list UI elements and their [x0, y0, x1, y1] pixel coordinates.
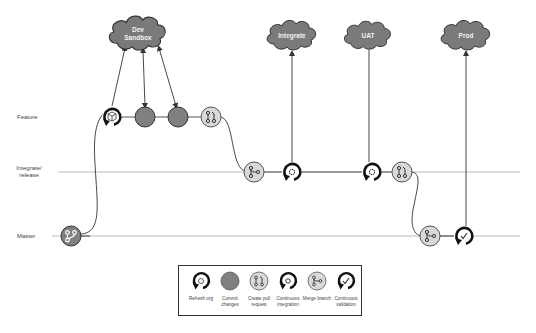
continuous-integration-icon [273, 266, 303, 296]
cloud-label-uat: UAT [348, 32, 388, 40]
row-label-integrate-line2: release [14, 172, 44, 179]
legend-item-commit: Commit changes [215, 266, 245, 300]
refresh-org-node [102, 107, 122, 127]
legend-item-continuous-validation: Continuous validation [331, 266, 361, 300]
legend-item-merge-branch: Merge branch [302, 266, 332, 300]
legend-item-refresh-org: Refresh org [186, 266, 216, 300]
cloud-label-sandbox: Sandbox [118, 34, 158, 42]
refresh-org-icon [186, 266, 216, 296]
legend: Refresh org Commit changes Create pull r… [178, 265, 362, 316]
legend-label-continuous-validation: Continuous validation [329, 296, 363, 307]
merge-branch-icon [302, 266, 332, 296]
merge-node-integrate [244, 162, 264, 182]
continuous-integration-node-2 [362, 162, 382, 182]
arrow-to-dev-sandbox [112, 48, 125, 106]
continuous-validation-node [454, 226, 474, 246]
arrow-dev-sandbox-commit2 [159, 48, 176, 106]
row-label-master: Master [17, 233, 35, 240]
master-branch-node [61, 226, 81, 246]
pull-request-node-integrate [392, 162, 412, 182]
cloud-label-integrate: Integrate [272, 32, 312, 40]
legend-item-pull-request: Create pull request [244, 266, 274, 300]
commit-node-2 [168, 107, 188, 127]
merge-node-master [420, 226, 440, 246]
pull-request-node-feature [201, 107, 221, 127]
commit-node-1 [135, 107, 155, 127]
commit-icon [215, 266, 245, 296]
pull-request-icon [244, 266, 274, 296]
continuous-validation-icon [331, 266, 361, 296]
branch-curve-master-feature [80, 113, 104, 234]
row-label-feature: Feature [17, 114, 38, 121]
cloud-label-dev-sandbox: Dev Sandbox [118, 26, 158, 42]
row-label-integrate-line1: Integrate/ [14, 165, 44, 172]
row-label-integrate-release: Integrate/ release [14, 165, 44, 179]
cloud-label-prod: Prod [446, 32, 486, 40]
arrow-dev-sandbox-commit1 [143, 50, 145, 106]
continuous-integration-node-1 [282, 162, 302, 182]
legend-item-continuous-integration: Continuous integration [273, 266, 303, 300]
cloud-label-dev: Dev [118, 26, 158, 34]
curve-integrate-master [410, 172, 422, 236]
curve-feature-integrate [220, 117, 246, 171]
